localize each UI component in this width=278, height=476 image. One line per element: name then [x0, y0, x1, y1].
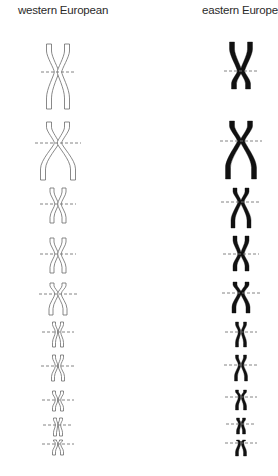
- right-chromatid: [241, 390, 246, 410]
- right-chromatid: [58, 355, 64, 381]
- eastern-chromosome-1: [224, 42, 258, 89]
- right-chromatid: [241, 236, 249, 271]
- right-chromatid: [241, 282, 250, 313]
- eastern-chromosome-7: [224, 355, 258, 381]
- right-chromatid: [241, 188, 251, 228]
- right-chromatid: [58, 418, 62, 436]
- left-chromatid: [47, 44, 59, 109]
- right-chromatid: [58, 238, 66, 273]
- right-chromatid: [240, 42, 252, 89]
- left-chromatid: [53, 322, 58, 347]
- western-chromosome-3: [40, 188, 76, 223]
- western-chromosome-7: [41, 355, 75, 381]
- right-chromatid: [58, 188, 66, 223]
- western-chromosome-9: [43, 418, 73, 436]
- left-chromatid: [230, 42, 242, 89]
- right-chromatid: [57, 122, 75, 180]
- right-chromatid: [58, 283, 67, 315]
- right-chromatid: [240, 121, 256, 179]
- western-chromosome-10: [42, 440, 74, 455]
- right-chromatid: [241, 418, 245, 434]
- left-chromatid: [41, 122, 59, 180]
- eastern-chromosome-2: [220, 121, 262, 179]
- western-european-chromosomes: [35, 44, 81, 455]
- left-chromatid: [236, 440, 241, 456]
- right-chromatid: [241, 322, 246, 347]
- eastern-chromosome-3: [221, 188, 261, 228]
- eastern-chromosome-9: [226, 418, 256, 434]
- left-chromatid: [232, 282, 241, 313]
- left-chromatid: [50, 238, 58, 273]
- eastern-chromosome-5: [222, 282, 260, 313]
- right-chromatid: [57, 44, 69, 109]
- eastern-european-chromosomes: [220, 42, 262, 456]
- left-chromatid: [50, 188, 58, 223]
- western-chromosome-6: [42, 322, 74, 347]
- western-chromosome-4: [40, 238, 76, 273]
- right-chromatid: [241, 355, 247, 381]
- western-chromosome-8: [42, 391, 74, 411]
- left-chromatid: [231, 188, 241, 228]
- right-chromatid: [241, 440, 246, 456]
- left-chromatid: [236, 322, 241, 347]
- left-chromatid: [226, 121, 242, 179]
- right-chromatid: [58, 391, 63, 411]
- left-chromatid: [236, 390, 241, 410]
- western-chromosome-2: [35, 122, 81, 180]
- chromosome-diagram: [0, 0, 278, 476]
- left-chromatid: [235, 355, 241, 381]
- western-chromosome-5: [39, 283, 77, 315]
- right-chromatid: [58, 322, 63, 347]
- left-chromatid: [53, 440, 58, 455]
- eastern-chromosome-8: [225, 390, 257, 410]
- left-chromatid: [237, 418, 241, 434]
- eastern-chromosome-6: [225, 322, 257, 347]
- left-chromatid: [54, 418, 58, 436]
- right-chromatid: [58, 440, 63, 455]
- left-chromatid: [233, 236, 241, 271]
- left-chromatid: [52, 355, 58, 381]
- left-chromatid: [49, 283, 58, 315]
- western-chromosome-1: [41, 44, 75, 109]
- left-chromatid: [53, 391, 58, 411]
- eastern-chromosome-10: [225, 440, 257, 456]
- eastern-chromosome-4: [223, 236, 259, 271]
